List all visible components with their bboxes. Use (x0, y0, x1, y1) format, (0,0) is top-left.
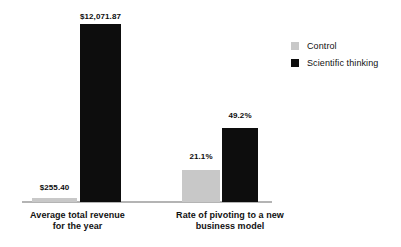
legend-item-scientific-thinking: Scientific thinking (291, 58, 378, 68)
category-label-line-1: Rate of pivoting to a new (176, 210, 284, 220)
bar-control-rate-of-pivoting (182, 170, 220, 202)
category-label-line-1: Average total revenue (30, 210, 125, 220)
chart-legend: Control Scientific thinking (291, 41, 378, 75)
bar-scientific-thinking-average-total-revenue (80, 24, 121, 202)
plot-area: $255.40 $12,071.87 21.1% 49.2% Average t… (0, 0, 401, 247)
bar-chart: $255.40 $12,071.87 21.1% 49.2% Average t… (0, 0, 401, 247)
value-label-scientific-thinking-average-total-revenue: $12,071.87 (68, 12, 133, 21)
category-label-rate-of-pivoting: Rate of pivoting to a new business model (160, 210, 300, 232)
category-label-line-2: business model (160, 221, 300, 232)
bar-scientific-thinking-rate-of-pivoting (222, 128, 258, 202)
legend-swatch-icon-control (291, 42, 299, 50)
bar-control-average-total-revenue (32, 198, 77, 202)
legend-swatch-icon-scientific-thinking (291, 59, 299, 67)
legend-label-scientific-thinking: Scientific thinking (307, 58, 378, 68)
value-label-scientific-thinking-rate-of-pivoting: 49.2% (209, 111, 271, 120)
category-label-line-2: for the year (10, 221, 145, 232)
value-label-control-average-total-revenue: $255.40 (22, 183, 87, 192)
legend-item-control: Control (291, 41, 378, 51)
category-label-average-total-revenue: Average total revenue for the year (10, 210, 145, 232)
legend-label-control: Control (307, 41, 337, 51)
